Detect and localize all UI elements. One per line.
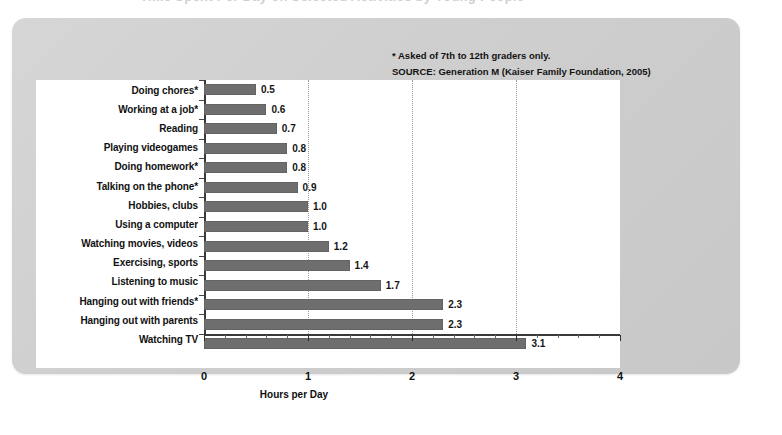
category-label: Hobbies, clubs [128,199,198,210]
y-axis-tick [199,119,204,120]
annotation-block: * Asked of 7th to 12th graders only. SOU… [392,48,722,80]
bar-row: 0.8 [204,158,620,178]
x-axis-minor-tick [370,335,371,338]
y-axis-tick [199,256,204,257]
y-axis-tick [199,139,204,140]
x-axis-minor-tick [329,335,330,338]
bar [204,221,308,232]
category-label: Reading [159,122,198,133]
bar-row: 0.8 [204,139,620,159]
x-axis-ticks [204,335,620,341]
x-axis-minor-tick [474,335,475,338]
x-axis-minor-tick [246,335,247,338]
x-axis-minor-tick [266,335,267,338]
x-tick-label: 3 [513,370,519,382]
category-label: Exercising, sports [113,257,198,268]
bar-value-label: 0.8 [292,162,306,173]
bar-value-label: 0.8 [292,143,306,154]
bar-row: 0.7 [204,119,620,139]
bar [204,260,350,271]
bar-value-label: 1.7 [386,280,400,291]
bar [204,162,287,173]
category-label: Talking on the phone* [96,180,198,191]
bar-value-label: 1.0 [313,221,327,232]
category-row: Hobbies, clubs [36,195,204,214]
x-axis-minor-tick [433,335,434,338]
x-axis-minor-tick [558,335,559,338]
bar-row: 2.3 [204,295,620,315]
bar [204,123,277,134]
x-axis-minor-tick [578,335,579,338]
plot-card: Doing chores*Working at a job*ReadingPla… [36,80,620,368]
bar-row: 1.4 [204,256,620,276]
category-label: Doing homework* [114,161,198,172]
x-axis-minor-tick [350,335,351,338]
x-axis-major-tick [204,335,205,341]
y-axis-tick [199,197,204,198]
bar [204,280,381,291]
chart-panel: * Asked of 7th to 12th graders only. SOU… [12,18,740,374]
y-axis-tick [199,314,204,315]
category-row: Hanging out with parents [36,310,204,329]
bar [204,201,308,212]
y-axis-tick [199,80,204,81]
category-row: Reading [36,118,204,137]
bar [204,241,329,252]
category-label: Working at a job* [118,103,198,114]
category-label: Watching movies, videos [81,238,198,249]
x-axis-title-text: Hours per Day [260,389,328,400]
bar-row: 1.2 [204,236,620,256]
x-tick-label: 2 [409,370,415,382]
x-axis-major-tick [412,335,413,341]
x-axis-minor-tick [287,335,288,338]
category-axis-labels: Doing chores*Working at a job*ReadingPla… [36,80,204,349]
y-axis-tick [199,158,204,159]
bar-value-label: 2.3 [448,299,462,310]
category-row: Talking on the phone* [36,176,204,195]
bar-row: 0.6 [204,100,620,120]
bar-row: 1.7 [204,275,620,295]
category-label: Using a computer [115,218,198,229]
y-axis-tick [199,236,204,237]
category-label: Doing chores* [132,84,199,95]
category-label: Hanging out with parents [80,314,198,325]
x-axis-minor-tick [391,335,392,338]
category-row: Hanging out with friends* [36,291,204,310]
bar-value-label: 2.3 [448,319,462,330]
x-axis-title: Hours per Day [36,389,620,400]
bar-value-label: 0.7 [282,123,296,134]
category-row: Doing homework* [36,157,204,176]
annotation-footnote: * Asked of 7th to 12th graders only. [392,48,722,64]
x-axis-major-tick [620,335,621,341]
category-row: Working at a job* [36,99,204,118]
category-label: Watching TV [139,334,198,345]
x-tick-label: 0 [201,370,207,382]
category-row: Watching TV [36,329,204,348]
x-axis-minor-tick [599,335,600,338]
x-axis-major-tick [308,335,309,341]
annotation-source: SOURCE: Generation M (Kaiser Family Foun… [392,64,722,80]
x-tick-label: 4 [617,370,623,382]
category-row: Watching movies, videos [36,234,204,253]
bar-row: 1.0 [204,217,620,237]
ghost-title: Time Spent Per Day on Selected Activitie… [140,0,524,4]
bar-value-label: 0.9 [303,182,317,193]
bar-row: 0.9 [204,178,620,198]
category-row: Using a computer [36,214,204,233]
y-axis-tick [199,275,204,276]
y-axis-tick [199,295,204,296]
x-axis-major-tick [516,335,517,341]
x-axis-minor-tick [495,335,496,338]
bar [204,182,298,193]
category-row: Playing videogames [36,138,204,157]
y-axis-tick [199,217,204,218]
bar-row: 2.3 [204,314,620,334]
category-label: Hanging out with friends* [79,295,198,306]
bar-value-label: 1.0 [313,201,327,212]
y-axis-tick [199,178,204,179]
plot-area: 0.50.60.70.80.80.91.01.01.21.41.72.32.33… [204,80,620,334]
bar-value-label: 0.5 [261,84,275,95]
bar [204,319,443,330]
category-label: Playing videogames [104,142,198,153]
bar-value-label: 1.4 [355,260,369,271]
